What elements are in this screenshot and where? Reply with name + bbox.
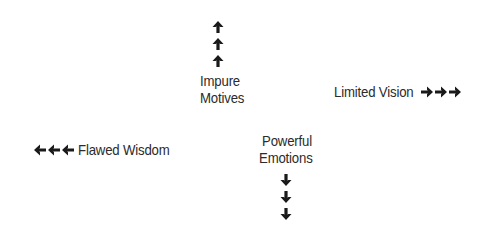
motives-label: Motives <box>200 89 244 106</box>
impure-label: Impure <box>200 72 240 89</box>
down-arrow-icon <box>280 174 292 186</box>
flawed-wisdom-label: Flawed Wisdom <box>78 141 170 158</box>
limited-vision-label: Limited Vision <box>334 83 413 100</box>
left-arrow-icon <box>48 144 60 156</box>
up-arrow-icon <box>212 21 224 33</box>
right-arrow-icon <box>449 86 461 98</box>
up-arrow-icon <box>212 55 224 67</box>
left-arrow-icon <box>34 144 46 156</box>
right-arrow-icon <box>435 86 447 98</box>
right-arrow-icon <box>421 86 433 98</box>
emotions-label: Emotions <box>259 149 313 166</box>
powerful-label: Powerful <box>262 132 312 149</box>
up-arrow-icon <box>212 38 224 50</box>
down-arrow-icon <box>280 208 292 220</box>
left-arrow-icon <box>62 144 74 156</box>
down-arrow-icon <box>280 191 292 203</box>
